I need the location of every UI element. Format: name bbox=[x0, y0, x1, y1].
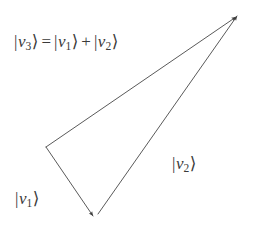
ket-subscript: 1 bbox=[65, 40, 71, 53]
label-sum-equation: |v3⟩=|v1⟩+|v2⟩ bbox=[14, 33, 118, 50]
plus-sign: + bbox=[78, 32, 94, 51]
label-vector-v1: |v1⟩ bbox=[15, 190, 39, 207]
equals-sign: = bbox=[38, 32, 54, 51]
ket-subscript: 2 bbox=[183, 162, 189, 175]
label-vector-v2: |v2⟩ bbox=[172, 155, 196, 172]
ket-subscript: 2 bbox=[105, 40, 111, 53]
vector-arrow-v2 bbox=[98, 16, 237, 214]
vector-arrow-v1 bbox=[46, 147, 93, 216]
ket-subscript: 3 bbox=[25, 40, 31, 53]
vector-addition-diagram: |v3⟩=|v1⟩+|v2⟩ |v1⟩ |v2⟩ bbox=[0, 0, 253, 235]
ket-subscript: 1 bbox=[26, 197, 32, 210]
ket-bracket: ⟩ bbox=[32, 188, 39, 208]
ket-bracket: ⟩ bbox=[189, 153, 196, 173]
ket-bracket: ⟩ bbox=[111, 31, 118, 51]
